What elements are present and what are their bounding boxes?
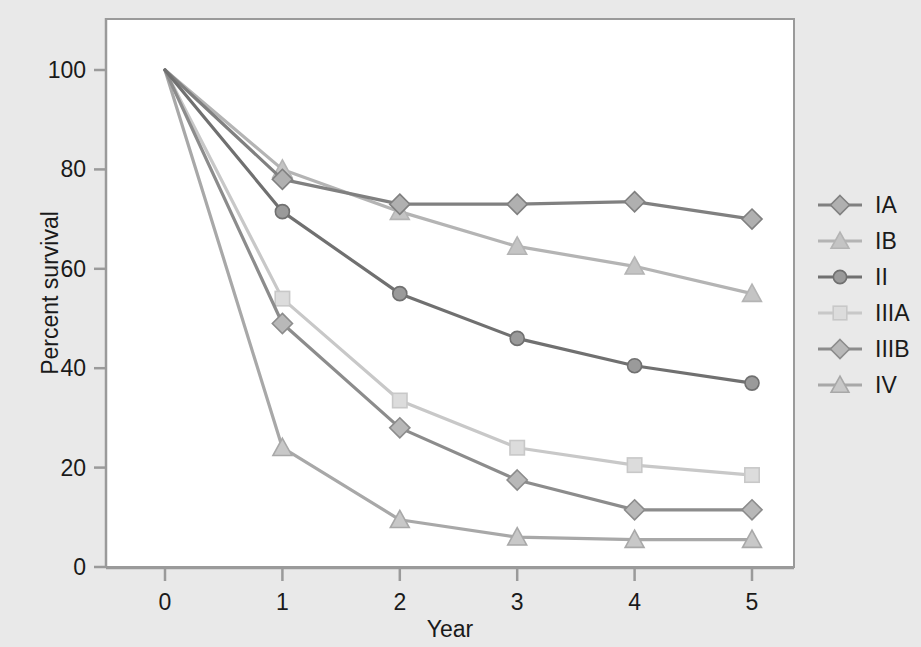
legend-item-ii[interactable]: II (818, 264, 888, 290)
series-group (165, 70, 762, 547)
data-point-marker (390, 194, 410, 214)
legend-item-ib[interactable]: IB (818, 228, 897, 254)
data-point-marker (510, 441, 524, 455)
x-axis-title: Year (427, 616, 474, 642)
legend-label-iv: IV (875, 372, 897, 398)
x-tick-label: 5 (746, 589, 759, 615)
data-point-marker (390, 510, 409, 527)
data-point-marker (833, 270, 846, 283)
legend-label-ii: II (875, 264, 888, 290)
data-point-marker (275, 205, 289, 219)
x-tick-label: 4 (628, 589, 641, 615)
legend-label-ib: IB (875, 228, 897, 254)
data-point-marker (745, 468, 759, 482)
x-tick-group: 012345 (159, 568, 759, 615)
data-point-marker (628, 359, 642, 373)
data-point-marker (275, 291, 289, 305)
data-point-marker (507, 194, 527, 214)
series-iiib (165, 70, 762, 520)
legend-item-iiia[interactable]: IIIA (818, 300, 910, 326)
survival-curve-chart: 020406080100 012345 Percent survival Yea… (0, 0, 921, 647)
figure-canvas: 020406080100 012345 Percent survival Yea… (0, 0, 921, 647)
data-point-marker (742, 500, 762, 520)
data-point-marker (833, 306, 847, 320)
series-iv (165, 70, 761, 547)
legend-item-iv[interactable]: IV (818, 372, 897, 398)
x-tick-label: 2 (393, 589, 406, 615)
data-point-marker (742, 209, 762, 229)
x-tick-label: 0 (159, 589, 172, 615)
data-point-marker (625, 192, 645, 212)
series-line-ii (165, 70, 752, 383)
data-point-marker (830, 195, 849, 214)
data-point-marker (273, 438, 292, 455)
data-point-marker (627, 458, 641, 472)
y-tick-label: 40 (60, 355, 86, 381)
series-line-iv (165, 70, 752, 540)
legend-item-ia[interactable]: IA (818, 192, 897, 218)
y-tick-label: 60 (60, 256, 86, 282)
data-point-marker (625, 500, 645, 520)
data-point-marker (393, 393, 407, 407)
data-point-marker (393, 287, 407, 301)
legend-item-iiib[interactable]: IIIB (818, 336, 910, 362)
y-tick-label: 100 (48, 57, 86, 83)
data-point-marker (745, 376, 759, 390)
x-tick-label: 3 (511, 589, 524, 615)
y-tick-label: 20 (60, 455, 86, 481)
x-tick-label: 1 (276, 589, 289, 615)
data-point-marker (507, 470, 527, 490)
legend-label-ia: IA (875, 192, 897, 218)
legend: IAIBIIIIIAIIIBIV (818, 192, 910, 398)
y-tick-label: 80 (60, 156, 86, 182)
series-line-iiib (165, 70, 752, 510)
legend-label-iiia: IIIA (875, 300, 910, 326)
data-point-marker (830, 339, 849, 358)
data-point-marker (510, 331, 524, 345)
series-ia (165, 70, 762, 229)
y-axis-title: Percent survival (37, 211, 63, 375)
legend-label-iiib: IIIB (875, 336, 910, 362)
y-tick-label: 0 (73, 554, 86, 580)
